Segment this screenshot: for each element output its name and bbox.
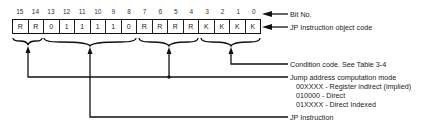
label-object-code: JP Instruction object code (290, 23, 372, 32)
arrowhead (88, 47, 93, 54)
line-jp-instruction (90, 52, 288, 117)
arrowhead (26, 46, 31, 53)
label-mode-direct-indexed: 01XXXX - Direct Indexed (296, 100, 376, 109)
arrowhead (262, 11, 272, 17)
brace-bits-3-0 (201, 38, 260, 46)
label-condition-code: Condition code. See Table 3-4 (290, 60, 386, 69)
brace-bits-7-4 (139, 38, 198, 46)
arrowhead (167, 47, 172, 54)
label-jump-mode: Jump address computation mode (290, 73, 396, 82)
junction-dot (167, 75, 170, 78)
brace-bits-13-8 (44, 38, 136, 46)
arrowhead (229, 47, 234, 54)
label-bit-no: Bit No. (290, 10, 312, 19)
label-mode-register-indirect: 00XXXX - Register indirect (implied) (296, 82, 411, 91)
label-jp-instruction: JP Instruction (290, 113, 333, 122)
label-mode-direct: 010000 - Direct (296, 91, 345, 100)
line-condition-code (231, 52, 288, 64)
arrowhead (262, 24, 272, 30)
brace-bits-15-14 (13, 38, 42, 45)
